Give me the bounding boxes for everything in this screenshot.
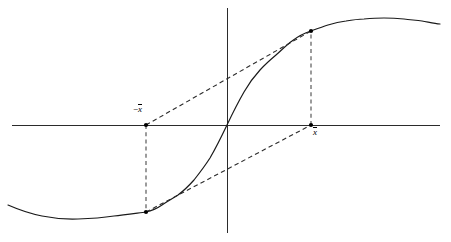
- upper-curve-point-marker: [309, 29, 313, 33]
- right-point-label: x: [313, 128, 317, 137]
- x-bar-glyph-right: x: [313, 128, 317, 137]
- figure-canvas: [0, 0, 451, 242]
- function-curve: [8, 18, 440, 219]
- left-point-label: −x: [133, 105, 142, 114]
- left-axis-point-marker: [144, 123, 148, 127]
- lower-curve-point-marker: [144, 210, 148, 214]
- x-bar-glyph-left: x: [138, 105, 142, 114]
- figure-container: −x x: [0, 0, 451, 242]
